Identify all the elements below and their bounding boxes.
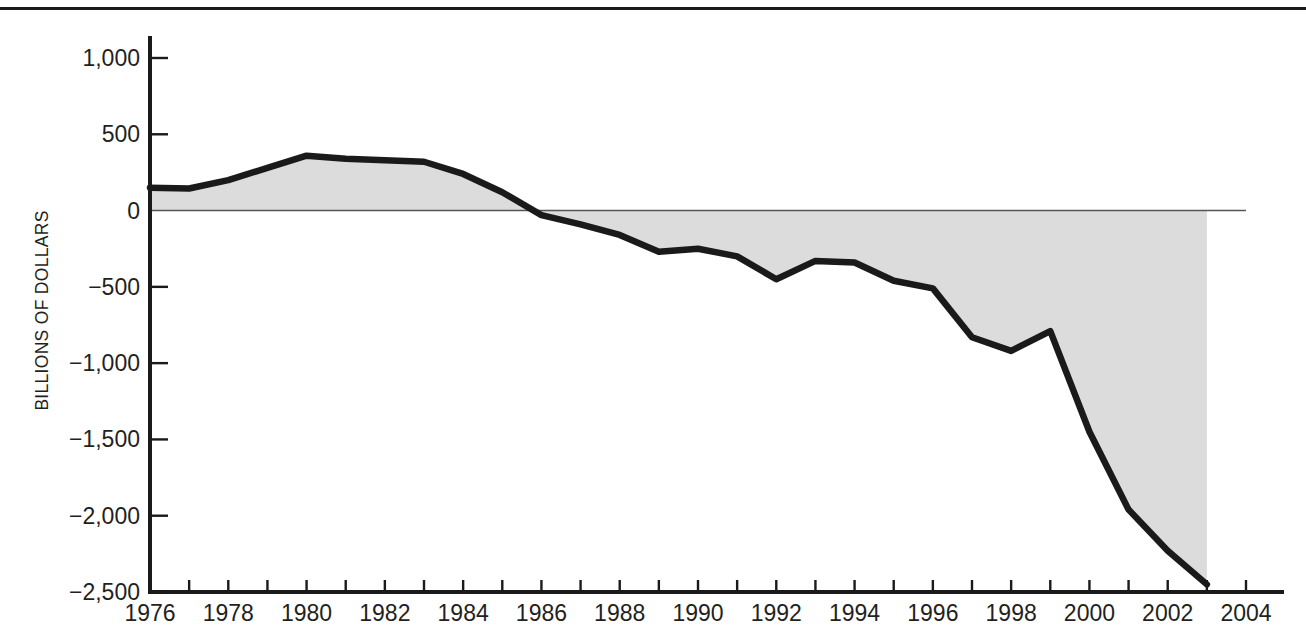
area-fill <box>150 156 1207 585</box>
y-tick-label: −1,500 <box>0 426 140 453</box>
x-tick-label: 1976 <box>124 600 175 627</box>
x-tick-label: 1978 <box>203 600 254 627</box>
x-tick-label: 2004 <box>1220 600 1271 627</box>
x-tick-label: 1984 <box>438 600 489 627</box>
y-tick-label: −1,000 <box>0 350 140 377</box>
x-tick-label: 1992 <box>751 600 802 627</box>
y-tick-label: 0 <box>0 197 140 224</box>
x-tick-label: 1980 <box>281 600 332 627</box>
x-tick-label: 1988 <box>594 600 645 627</box>
y-tick-label: −2,500 <box>0 579 140 606</box>
chart-container: BILLIONS OF DOLLARS 1,0005000−500−1,000−… <box>0 0 1306 642</box>
plot-area <box>0 0 1306 642</box>
x-tick-label: 1990 <box>672 600 723 627</box>
y-tick-label: −500 <box>0 273 140 300</box>
x-tick-label: 2002 <box>1142 600 1193 627</box>
y-tick-label: 500 <box>0 121 140 148</box>
x-tick-label: 1986 <box>516 600 567 627</box>
y-axis-ticks <box>150 58 168 592</box>
area-fill-group <box>150 156 1207 585</box>
x-tick-label: 1998 <box>986 600 1037 627</box>
x-tick-label: 1994 <box>829 600 880 627</box>
x-tick-label: 1996 <box>907 600 958 627</box>
y-tick-label: −2,000 <box>0 502 140 529</box>
x-tick-label: 2000 <box>1064 600 1115 627</box>
x-tick-label: 1982 <box>359 600 410 627</box>
y-tick-label: 1,000 <box>0 45 140 72</box>
